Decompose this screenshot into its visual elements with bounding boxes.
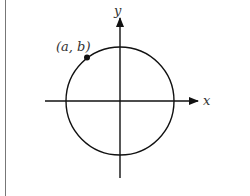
point-label: (a, b) [56, 39, 90, 54]
y-axis-label: y [113, 3, 122, 18]
coordinate-diagram: x y (a, b) [0, 0, 250, 196]
figure-canvas: x y (a, b) [0, 0, 250, 196]
x-axis-label: x [203, 93, 211, 108]
point-a-b [84, 55, 90, 61]
